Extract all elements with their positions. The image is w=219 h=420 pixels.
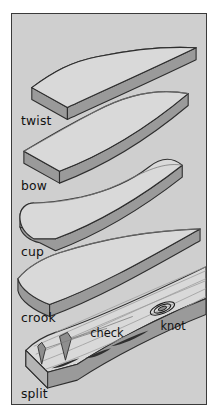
label-twist: twist [21, 113, 52, 128]
label-bow: bow [21, 178, 47, 193]
label-split: split [21, 386, 48, 401]
label-crook: crook [21, 310, 56, 325]
wood-defects-figure: twist bow cup crook [11, 13, 207, 405]
label-knot: knot [160, 319, 186, 333]
label-check: check [90, 326, 124, 340]
label-cup: cup [21, 244, 44, 259]
figure-canvas: twist bow cup crook [12, 14, 206, 404]
